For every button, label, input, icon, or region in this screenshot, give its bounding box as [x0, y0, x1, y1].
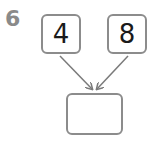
arrow-right-icon [97, 56, 128, 89]
arrow-left-icon [60, 56, 92, 89]
answer-box[interactable] [66, 93, 123, 135]
